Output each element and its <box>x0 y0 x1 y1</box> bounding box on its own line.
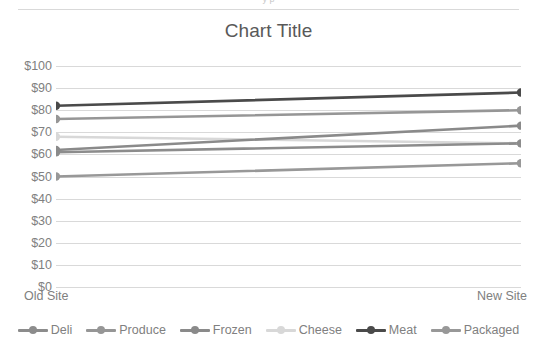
legend-item-produce[interactable]: Produce <box>86 323 166 337</box>
x-axis-label-new-site: New Site <box>477 289 527 303</box>
legend-marker-icon <box>29 326 37 334</box>
legend-marker-icon <box>277 326 285 334</box>
data-point-packaged-new-site <box>517 159 521 167</box>
legend-label: Deli <box>51 323 73 337</box>
y-axis-tick-label: $100 <box>0 60 52 72</box>
clipped-top-text: y p <box>0 0 537 4</box>
clipped-top-text-strip: y p <box>0 0 537 9</box>
legend-swatch-icon <box>180 324 210 336</box>
series-line-deli <box>56 143 521 152</box>
series-lines <box>56 93 521 177</box>
page-title: Chart Title <box>0 18 537 44</box>
y-axis-tick-label: $30 <box>0 215 52 227</box>
y-axis-tick-label: $90 <box>0 82 52 94</box>
legend-swatch-icon <box>431 324 461 336</box>
y-axis-tick-label: $80 <box>0 104 52 116</box>
legend-item-deli[interactable]: Deli <box>18 323 73 337</box>
legend-label: Packaged <box>464 323 520 337</box>
series-line-produce <box>56 110 521 119</box>
legend-label: Cheese <box>299 323 342 337</box>
y-axis-tick-label: $10 <box>0 259 52 271</box>
y-axis-tick-label: $60 <box>0 148 52 160</box>
data-point-meat-old-site <box>56 102 60 110</box>
chart-screenshot: y p Chart Title $100$90$80$70$60$50$40$3… <box>0 0 537 352</box>
x-axis-label-old-site: Old Site <box>24 289 68 303</box>
y-axis-tick-label: $20 <box>0 237 52 249</box>
data-point-produce-new-site <box>517 106 521 114</box>
legend-swatch-icon <box>18 324 48 336</box>
legend-item-frozen[interactable]: Frozen <box>180 323 252 337</box>
series-markers <box>56 88 521 180</box>
chart-svg <box>56 66 521 287</box>
legend-swatch-icon <box>356 324 386 336</box>
y-axis-tick-label: $40 <box>0 193 52 205</box>
legend-label: Produce <box>119 323 166 337</box>
series-line-meat <box>56 93 521 106</box>
legend-label: Meat <box>389 323 417 337</box>
data-point-meat-new-site <box>517 88 521 96</box>
legend-item-cheese[interactable]: Cheese <box>266 323 342 337</box>
top-divider <box>18 9 519 10</box>
data-point-produce-old-site <box>56 115 60 123</box>
legend-marker-icon <box>442 326 450 334</box>
legend-item-meat[interactable]: Meat <box>356 323 417 337</box>
plot-area <box>56 66 521 287</box>
legend-label: Frozen <box>213 323 252 337</box>
y-axis-tick-label: $50 <box>0 171 52 183</box>
data-point-deli-new-site <box>517 139 521 147</box>
legend-marker-icon <box>367 326 375 334</box>
data-point-frozen-new-site <box>517 121 521 129</box>
chart-legend: DeliProduceFrozenCheeseMeatPackaged <box>0 318 537 342</box>
series-line-packaged <box>56 163 521 176</box>
gridline <box>56 287 521 288</box>
data-point-packaged-old-site <box>56 172 60 180</box>
legend-swatch-icon <box>86 324 116 336</box>
data-point-cheese-old-site <box>56 133 60 141</box>
legend-item-packaged[interactable]: Packaged <box>431 323 520 337</box>
legend-swatch-icon <box>266 324 296 336</box>
legend-marker-icon <box>97 326 105 334</box>
y-axis-tick-label: $70 <box>0 126 52 138</box>
legend-marker-icon <box>191 326 199 334</box>
